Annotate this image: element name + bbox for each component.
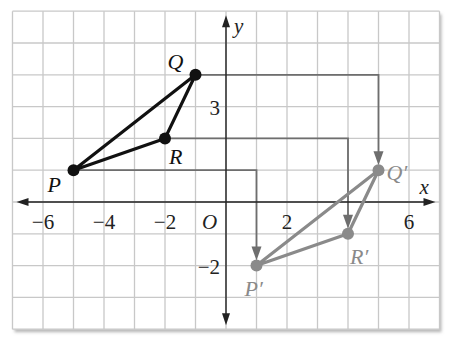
vertex-R-prime (342, 228, 354, 240)
point-label-R: R (168, 144, 183, 169)
point-label-Q-prime: Q′ (387, 160, 409, 185)
point-label-Q: Q (168, 49, 184, 74)
point-label-P-prime: P′ (244, 276, 264, 301)
point-label-P: P (47, 172, 61, 197)
vertex-Q-prime (373, 164, 385, 176)
coordinate-plane-figure: −6−4−2263−2OxyPQRP′Q′R′ (0, 0, 450, 343)
vertex-Q (190, 69, 202, 81)
x-tick-label: −2 (154, 210, 176, 234)
y-tick-label: 3 (210, 96, 221, 120)
y-axis-label: y (232, 14, 244, 38)
vertex-R (159, 132, 171, 144)
x-tick-label: −6 (32, 210, 54, 234)
coordinate-plane: −6−4−2263−2OxyPQRP′Q′R′ (0, 0, 450, 343)
y-tick-label: −2 (198, 255, 220, 279)
origin-label: O (202, 210, 217, 234)
x-tick-label: 2 (282, 210, 293, 234)
x-axis-label: x (419, 175, 430, 199)
vertex-P-prime (251, 260, 263, 272)
x-tick-label: −4 (93, 210, 116, 234)
point-label-R-prime: R′ (349, 244, 369, 269)
vertex-P (68, 164, 80, 176)
x-tick-label: 6 (404, 210, 415, 234)
